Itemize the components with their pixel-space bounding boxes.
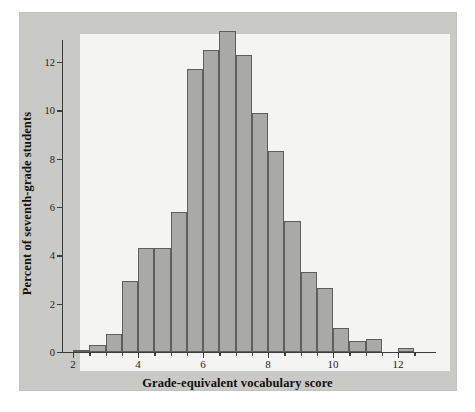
y-axis-title: Percent of seventh-grade students: [20, 79, 35, 329]
chart-panel: [20, 13, 456, 390]
x-axis-title: Grade-equivalent vocabulary score: [0, 376, 475, 391]
figure-container: 024681012 24681012 Grade-equivalent voca…: [0, 0, 475, 412]
plot-canvas: [80, 34, 450, 371]
